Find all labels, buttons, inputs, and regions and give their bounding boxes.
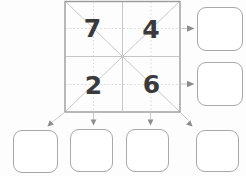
arrow-down-column-1-icon — [91, 120, 97, 126]
arrow-down-column-2-icon — [148, 120, 154, 126]
arrow-down-right-icon — [186, 120, 192, 126]
answer-box-column-1[interactable] — [70, 129, 113, 172]
answer-box-row-1[interactable] — [197, 7, 243, 51]
puzzle-canvas: 7 4 2 6 — [0, 0, 246, 176]
answer-box-diagonal-left[interactable] — [13, 130, 58, 173]
arrow-right-row-1-icon — [187, 25, 195, 32]
arrow-shafts — [52, 29, 189, 123]
grid-cell-top-right: 4 — [142, 17, 159, 42]
arrow-right-row-2-icon — [187, 81, 195, 88]
answer-box-column-2[interactable] — [126, 129, 169, 172]
grid-cell-top-left: 7 — [84, 16, 101, 41]
answer-box-diagonal-right[interactable] — [196, 130, 239, 172]
answer-box-row-2[interactable] — [197, 62, 243, 106]
grid-cell-bottom-left: 2 — [85, 73, 102, 98]
grid-cell-bottom-right: 6 — [143, 72, 160, 97]
